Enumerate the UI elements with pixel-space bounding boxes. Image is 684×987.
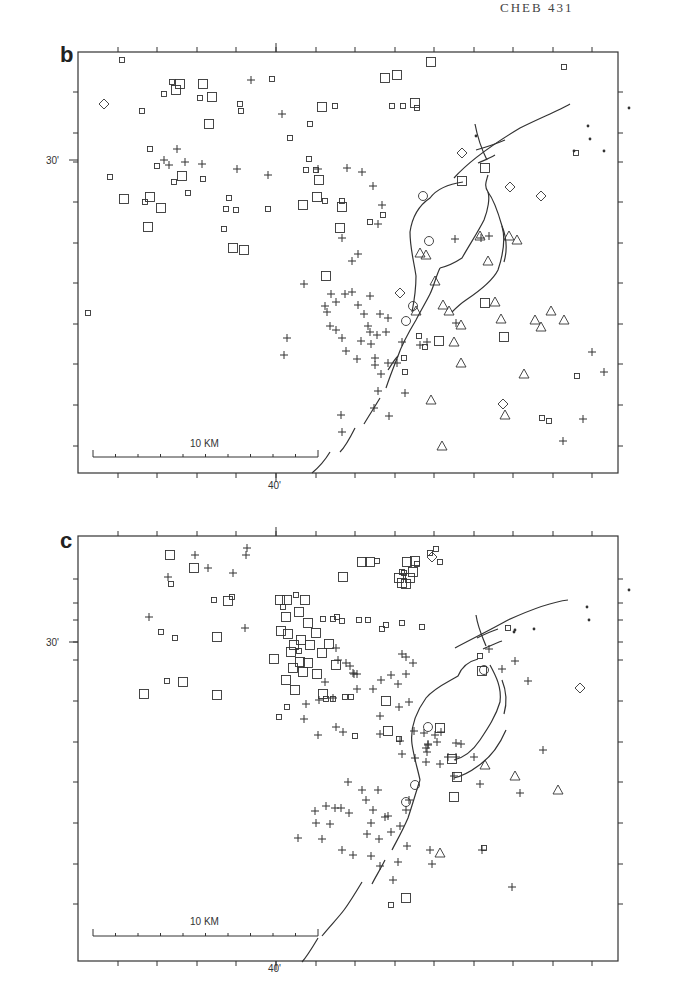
earthquake-diamond [427,552,437,562]
earthquake-square-large [384,727,393,736]
earthquake-square-large [190,564,199,573]
earthquake-cross [387,828,395,836]
earthquake-cross [145,613,153,621]
earthquake-triangle [435,848,445,857]
earthquake-cross [204,564,212,572]
earthquake-square-small [343,695,348,700]
earthquake-cross [243,544,251,552]
earthquake-cross [375,835,383,843]
earthquake-cross [369,685,377,693]
earthquake-square-small [169,582,174,587]
earthquake-cross [420,729,428,737]
earthquake-cross [409,659,417,667]
earthquake-square-large [291,686,300,695]
earthquake-cross [405,698,413,706]
earthquake-cross [300,715,308,723]
earthquake-cross [344,778,352,786]
seismicity-map-c [0,0,684,987]
earthquake-square-small [349,695,354,700]
figure-panel-c: c 30' 40' 10 KM [0,0,684,987]
fault-line [476,615,486,646]
earthquake-cross [485,645,493,653]
earthquake-square-large [277,627,286,636]
earthquake-square-small [285,705,290,710]
earthquake-square-large [282,613,291,622]
earthquake-cross [539,746,547,754]
earthquake-square-large [224,597,233,606]
earthquake-cross [322,802,330,810]
earthquake-square-large [284,630,293,639]
fault-line [302,938,318,962]
earthquake-cross [426,846,434,854]
earthquake-cross [367,819,375,827]
earthquake-cross [476,780,484,788]
earthquake-square-large [270,655,279,664]
earthquake-cross [331,804,339,812]
earthquake-cross [511,657,519,665]
earthquake-cross [396,737,404,745]
earthquake-cross [436,760,444,768]
earthquake-cross [508,883,516,891]
earthquake-cross [312,819,320,827]
earthquake-square-large [312,629,321,638]
earthquake-cross [516,789,524,797]
earthquake-cross [311,807,319,815]
earthquake-cross [395,703,403,711]
earthquake-square-small [281,605,286,610]
earthquake-square-small [428,551,433,556]
earthquake-square-small [340,619,345,624]
earthquake-square-large [283,596,292,605]
earthquake-cross [422,758,430,766]
earthquake-square-small [357,618,362,623]
fault-line [372,860,385,884]
earthquake-cross [377,676,385,684]
earthquake-square-large [319,690,328,699]
earthquake-cross [376,730,384,738]
earthquake-square-small [353,734,358,739]
earthquake-cross [349,851,357,859]
earthquake-cross [326,820,334,828]
earthquake-square-small [389,903,394,908]
earthquake-square-small [400,621,405,626]
earthquake-cross [433,738,441,746]
earthquake-cross [302,700,310,708]
fault-line [454,730,506,778]
earthquake-square-small [506,626,511,631]
earthquake-square-small [375,559,380,564]
earthquake-dot [514,629,517,632]
earthquake-triangle [510,771,520,780]
earthquake-cross [452,739,460,747]
earthquake-square-small [159,630,164,635]
earthquake-square-small [366,618,371,623]
earthquake-cross [524,677,532,685]
earthquake-cross [457,740,465,748]
earthquake-square-large [339,573,348,582]
earthquake-cross [411,754,419,762]
earthquake-cross [191,551,199,559]
earthquake-square-small [173,636,178,641]
earthquake-cross [389,876,397,884]
earthquake-cross [353,685,361,693]
earthquake-square-small [434,547,439,552]
earthquake-cross [394,680,402,688]
earthquake-cross [315,696,323,704]
earthquake-cross [498,665,506,673]
earthquake-square-large [179,678,188,687]
earthquake-cross [363,830,371,838]
earthquake-cross [332,723,340,731]
earthquake-cross [318,835,326,843]
earthquake-cross [470,753,478,761]
earthquake-cross [450,772,458,780]
earthquake-cross [349,669,357,677]
earthquake-cross [242,551,250,559]
earthquake-cross [403,842,411,850]
earthquake-square-small [478,654,483,659]
earthquake-cross [387,671,395,679]
earthquake-cross [374,786,382,794]
earthquake-cross [241,624,249,632]
earthquake-square-large [409,568,418,577]
earthquake-square-small [321,617,326,622]
earthquake-dot [628,589,631,592]
fault-line [412,659,478,780]
earthquake-square-large [297,636,306,645]
